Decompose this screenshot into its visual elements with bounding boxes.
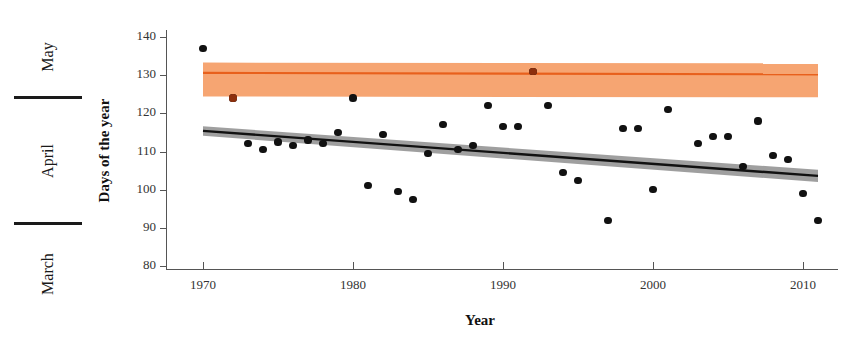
- data-point: [739, 163, 746, 170]
- data-point: [439, 121, 446, 128]
- y-tick-110: [160, 152, 167, 153]
- data-point: [799, 190, 806, 197]
- x-tick-1990: [503, 262, 504, 270]
- data-point: [784, 156, 791, 163]
- x-tick-2010: [803, 262, 804, 270]
- y-tick-120: [160, 113, 167, 114]
- x-axis-line: [166, 269, 838, 270]
- data-point: [514, 123, 521, 130]
- data-point: [619, 125, 626, 132]
- data-point: [469, 142, 476, 149]
- orange-trend-band: [203, 63, 818, 98]
- x-tick-label-2010: 2010: [773, 277, 833, 293]
- data-point: [709, 133, 716, 140]
- y-axis-title: Days of the year: [96, 81, 113, 221]
- y-tick-label-110: 110: [112, 143, 156, 159]
- x-tick-2000: [653, 262, 654, 270]
- data-point: [769, 152, 776, 159]
- chart-figure: May April March Days of the year Year 14…: [0, 0, 858, 345]
- x-tick-1970: [203, 262, 204, 270]
- data-point: [229, 94, 236, 101]
- data-point: [754, 117, 761, 124]
- data-point: [649, 186, 656, 193]
- data-point: [724, 133, 731, 140]
- month-label-may: May: [39, 15, 57, 99]
- y-tick-label-120: 120: [112, 104, 156, 120]
- y-tick-label-80: 80: [112, 257, 156, 273]
- x-tick-label-2000: 2000: [623, 277, 683, 293]
- data-point: [529, 68, 536, 75]
- x-tick-label-1980: 1980: [323, 277, 383, 293]
- plot-area: [167, 30, 838, 269]
- x-tick-1980: [353, 262, 354, 270]
- data-point: [409, 196, 416, 203]
- x-tick-label-1990: 1990: [473, 277, 533, 293]
- x-axis-title: Year: [420, 312, 540, 329]
- data-point: [394, 188, 401, 195]
- data-point: [259, 146, 266, 153]
- y-tick-80: [160, 266, 167, 267]
- data-point: [304, 136, 311, 143]
- orange-trend-line: [203, 73, 818, 75]
- data-point: [499, 123, 506, 130]
- month-tick-april-march: [14, 222, 82, 225]
- data-point: [454, 146, 461, 153]
- y-tick-label-100: 100: [112, 181, 156, 197]
- data-point: [604, 217, 611, 224]
- y-tick-label-90: 90: [112, 219, 156, 235]
- data-point: [424, 150, 431, 157]
- data-point: [379, 131, 386, 138]
- data-point: [349, 94, 356, 101]
- data-point: [289, 142, 296, 149]
- data-point: [334, 129, 341, 136]
- y-tick-90: [160, 228, 167, 229]
- y-tick-130: [160, 75, 167, 76]
- trend-bands-svg: [167, 30, 838, 269]
- month-label-march: March: [39, 232, 57, 316]
- data-point: [559, 169, 566, 176]
- data-point: [364, 182, 371, 189]
- data-point: [814, 217, 821, 224]
- month-ruler-axis: May April March: [0, 0, 110, 310]
- y-tick-label-130: 130: [112, 66, 156, 82]
- x-tick-label-1970: 1970: [173, 277, 233, 293]
- data-point: [574, 177, 581, 184]
- data-point: [664, 106, 671, 113]
- data-point: [484, 102, 491, 109]
- data-point: [274, 138, 281, 145]
- y-tick-140: [160, 37, 167, 38]
- month-label-april: April: [39, 119, 57, 203]
- data-point: [199, 45, 206, 52]
- data-point: [544, 102, 551, 109]
- data-point: [634, 125, 641, 132]
- y-tick-100: [160, 190, 167, 191]
- y-tick-label-140: 140: [112, 28, 156, 44]
